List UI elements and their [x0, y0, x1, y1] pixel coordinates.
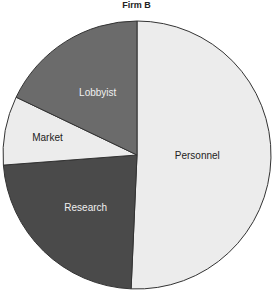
pie-slice-research — [3, 155, 137, 289]
slice-label-lobbyist: Lobbyist — [79, 87, 116, 98]
slice-label-research: Research — [64, 202, 107, 213]
slice-label-personnel: Personnel — [175, 150, 220, 161]
pie-chart: PersonnelResearchMarketLobbyist — [0, 0, 273, 292]
slice-label-market: Market — [32, 132, 63, 143]
